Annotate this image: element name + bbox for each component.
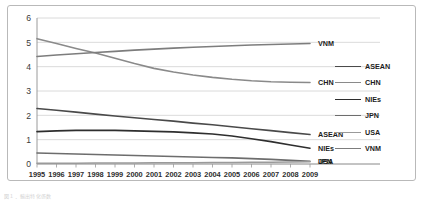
svg-text:2008: 2008 [282,170,298,179]
legend-item-nies[interactable]: NIEs [335,91,407,108]
svg-text:2002: 2002 [165,170,181,179]
legend-swatch-asean [335,66,361,67]
data-series-lines [37,39,310,164]
figure-caption: 図１．輸出特化係数 [4,192,52,199]
svg-text:2003: 2003 [185,170,201,179]
svg-text:2001: 2001 [146,170,162,179]
legend-swatch-vnm [335,148,361,149]
svg-text:1998: 1998 [87,170,103,179]
svg-text:2007: 2007 [263,170,279,179]
svg-text:USA: USA [318,157,333,166]
legend-item-usa[interactable]: USA [335,124,407,141]
legend-item-asean[interactable]: ASEAN [335,58,407,75]
svg-text:3: 3 [26,86,31,96]
legend-label: USA [365,128,380,137]
svg-text:2006: 2006 [243,170,259,179]
x-tick-marks [37,164,310,168]
svg-text:5: 5 [26,38,31,48]
svg-text:0: 0 [26,159,31,169]
legend-label: CHN [365,78,381,87]
legend-label: JPN [365,111,379,120]
svg-text:2000: 2000 [126,170,142,179]
svg-text:1: 1 [26,135,31,145]
svg-text:2: 2 [26,111,31,121]
legend-item-chn[interactable]: CHN [335,75,407,92]
legend-label: NIEs [365,95,381,104]
svg-text:1999: 1999 [107,170,123,179]
svg-text:2005: 2005 [224,170,240,179]
svg-text:CHN: CHN [318,78,334,87]
legend-label: ASEAN [365,62,390,71]
svg-text:4: 4 [26,62,31,72]
legend-swatch-jpn [335,115,361,116]
y-axis-tick-labels: 0123456 [26,13,31,169]
legend-item-vnm[interactable]: VNM [335,141,407,158]
svg-text:NIEs: NIEs [318,144,334,153]
chart-frame: 0123456 19951996199719981999200020012002… [7,5,416,181]
legend-swatch-chn [335,82,361,83]
svg-text:1995: 1995 [29,170,45,179]
legend-item-jpn[interactable]: JPN [335,108,407,125]
x-axis-tick-labels: 1995199619971998199920002001200220032004… [29,170,318,179]
svg-text:2009: 2009 [302,170,318,179]
svg-text:2004: 2004 [204,170,221,179]
svg-text:1996: 1996 [48,170,64,179]
legend-swatch-usa [335,132,361,133]
legend-swatch-nies [335,99,361,100]
svg-text:6: 6 [26,13,31,23]
chart-legend: ASEANCHNNIEsJPNUSAVNM [335,58,407,157]
svg-text:VNM: VNM [318,39,334,48]
legend-label: VNM [365,144,381,153]
svg-text:1997: 1997 [68,170,84,179]
